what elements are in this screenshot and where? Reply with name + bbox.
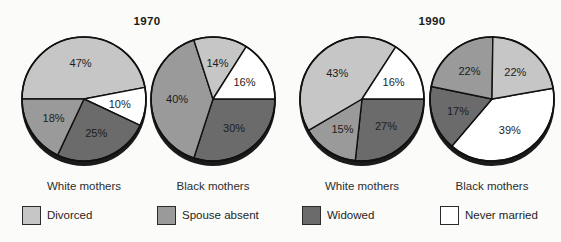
legend-item-divorced: Divorced xyxy=(22,205,92,225)
legend-label-divorced: Divorced xyxy=(47,209,92,221)
pie-1970-black-mothers: 30%40%14%16% xyxy=(147,33,279,177)
caption-1970-black-mothers: Black mothers xyxy=(151,180,275,192)
slice-percent-label: 18% xyxy=(43,112,65,124)
never-married-swatch xyxy=(440,206,459,225)
slice-percent-label: 22% xyxy=(458,65,480,77)
slice-percent-label: 14% xyxy=(206,57,228,69)
slice-percent-label: 27% xyxy=(375,120,397,132)
spouse-absent-swatch xyxy=(157,206,176,225)
pie-1990-black-mothers: 39%17%22%22% xyxy=(426,33,558,177)
legend-label-never-married: Never married xyxy=(465,209,538,221)
pie-svg: 47%10%25%18% xyxy=(18,33,150,177)
slice-percent-label: 30% xyxy=(223,122,245,134)
slice-percent-label: 47% xyxy=(70,57,92,69)
slice-percent-label: 40% xyxy=(166,93,188,105)
caption-1990-white-mothers: White mothers xyxy=(300,180,424,192)
slice-percent-label: 22% xyxy=(504,66,526,78)
year-title-1990: 1990 xyxy=(382,15,482,27)
slice-percent-label: 16% xyxy=(383,76,405,88)
pie-svg: 27%15%43%16% xyxy=(296,33,428,177)
pie-chart-figure: 1970 1990 47%10%25%18% 30%40%14%16% 27%1… xyxy=(0,0,561,242)
widowed-swatch xyxy=(302,206,321,225)
legend-item-spouse-absent: Spouse absent xyxy=(157,205,259,225)
pie-svg: 39%17%22%22% xyxy=(426,33,558,177)
divorced-swatch xyxy=(22,206,41,225)
slice-percent-label: 15% xyxy=(331,123,353,135)
pie-1990-white-mothers: 27%15%43%16% xyxy=(296,33,428,177)
caption-1970-white-mothers: White mothers xyxy=(22,180,146,192)
slice-percent-label: 43% xyxy=(326,67,348,79)
legend-label-spouse-absent: Spouse absent xyxy=(182,209,259,221)
pie-svg: 30%40%14%16% xyxy=(147,33,279,177)
slice-percent-label: 10% xyxy=(109,98,131,110)
slice-percent-label: 16% xyxy=(233,76,255,88)
slice-percent-label: 17% xyxy=(447,105,469,117)
slice-percent-label: 25% xyxy=(85,127,107,139)
legend-label-widowed: Widowed xyxy=(327,209,374,221)
pie-1970-white-mothers: 47%10%25%18% xyxy=(18,33,150,177)
legend-item-widowed: Widowed xyxy=(302,205,374,225)
legend-item-never-married: Never married xyxy=(440,205,538,225)
slice-percent-label: 39% xyxy=(499,124,521,136)
year-title-1970: 1970 xyxy=(97,15,197,27)
caption-1990-black-mothers: Black mothers xyxy=(430,180,554,192)
